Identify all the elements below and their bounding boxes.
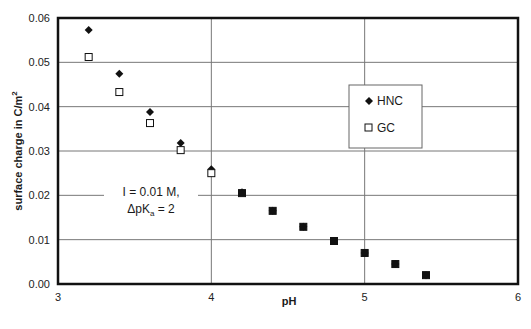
legend-label-gc: GC xyxy=(377,121,395,135)
gc-point xyxy=(85,54,92,61)
gc-point xyxy=(177,147,184,154)
y-tick-label: 0.02 xyxy=(29,189,50,201)
x-tick-label: 6 xyxy=(515,291,521,303)
gc-point xyxy=(116,89,123,96)
y-tick-label: 0.04 xyxy=(29,101,50,113)
tick-labels: 0.000.010.020.030.040.050.063456 xyxy=(29,12,521,303)
hnc-point xyxy=(115,70,123,78)
gc-point xyxy=(423,272,430,279)
open-square-icon xyxy=(365,124,372,131)
hnc-point xyxy=(85,26,93,34)
gc-point xyxy=(147,120,154,127)
annotation-line1: I = 0.01 M, xyxy=(122,185,179,199)
gc-point xyxy=(300,223,307,230)
gc-point xyxy=(392,261,399,268)
gc-point xyxy=(361,249,368,256)
y-axis-label: surface charge in C/m2 xyxy=(10,91,24,211)
x-tick-label: 4 xyxy=(208,291,214,303)
gc-point xyxy=(269,207,276,214)
y-tick-label: 0.00 xyxy=(29,278,50,290)
y-tick-label: 0.06 xyxy=(29,12,50,24)
legend: HNC GC xyxy=(349,85,422,148)
hnc-point xyxy=(146,108,154,116)
chart: 0.000.010.020.030.040.050.063456 I = 0.0… xyxy=(0,0,531,329)
x-tick-label: 3 xyxy=(55,291,61,303)
data-points xyxy=(85,26,430,279)
gc-point xyxy=(239,190,246,197)
legend-label-hnc: HNC xyxy=(377,94,403,108)
annotation: I = 0.01 M, ΔpKa = 2 xyxy=(104,183,198,218)
gridlines xyxy=(58,18,518,284)
gc-point xyxy=(208,170,215,177)
hnc-point xyxy=(177,139,185,147)
y-tick-label: 0.01 xyxy=(29,234,50,246)
y-tick-label: 0.03 xyxy=(29,145,50,157)
x-axis-label: pH xyxy=(282,295,297,307)
x-tick-label: 5 xyxy=(362,291,368,303)
y-tick-label: 0.05 xyxy=(29,56,50,68)
gc-point xyxy=(331,237,338,244)
